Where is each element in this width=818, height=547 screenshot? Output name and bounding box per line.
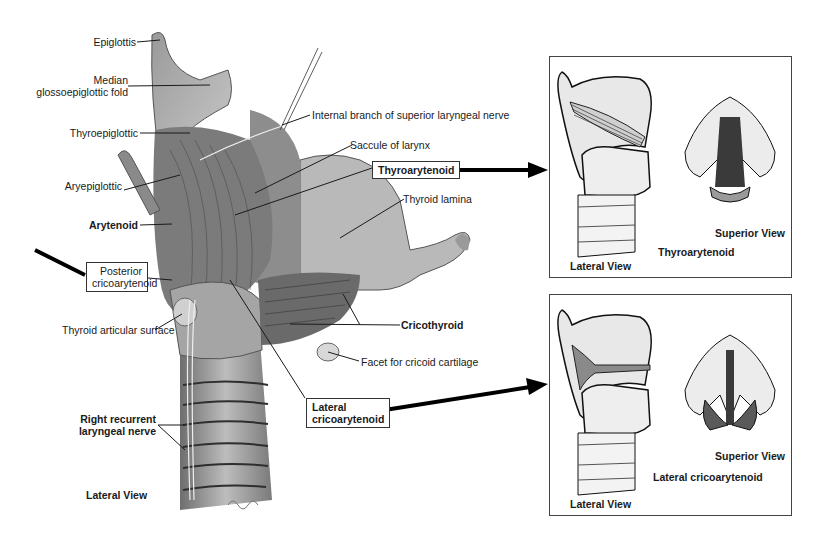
label-thyroid-lamina: Thyroid lamina — [403, 193, 472, 205]
arrow-lateral-cricoarytenoid — [372, 378, 548, 412]
label-facet-cricoid: Facet for cricoid cartilage — [361, 356, 478, 368]
label-epiglottis: Epiglottis — [80, 36, 136, 48]
label-thyroid-articular-surface: Thyroid articular surface — [62, 324, 175, 336]
label-right-recurrent-line1: Right recurrent — [60, 413, 156, 425]
caption-lateral-view-2: Lateral View — [570, 498, 631, 510]
caption-superior-view-1: Superior View — [715, 227, 785, 239]
label-posterior-cricoarytenoid: Posterior cricoarytenoid — [86, 262, 148, 292]
label-lateral-crico-line2: cricoarytenoid — [312, 413, 384, 425]
caption-muscle-1: Thyroarytenoid — [658, 246, 734, 258]
caption-muscle-2: Lateral cricoarytenoid — [653, 471, 763, 483]
label-median-fold-line2: glossoepiglottic fold — [20, 86, 128, 98]
label-lateral-crico-line1: Lateral — [312, 401, 384, 413]
label-cricothyroid: Cricothyroid — [401, 319, 463, 331]
label-lateral-cricoarytenoid: Lateral cricoarytenoid — [306, 398, 390, 428]
label-thyroarytenoid: Thyroarytenoid — [372, 161, 460, 179]
caption-main-lateral-view: Lateral View — [86, 489, 147, 501]
label-arytenoid: Arytenoid — [60, 219, 138, 231]
inset-panel-lateral-cricoarytenoid: Superior View Lateral cricoarytenoid Lat… — [549, 294, 792, 516]
label-median-fold-line1: Median — [40, 74, 128, 86]
caption-superior-view-2: Superior View — [715, 450, 785, 462]
label-saccule: Saccule of larynx — [350, 139, 430, 151]
caption-lateral-view-1: Lateral View — [570, 260, 631, 272]
label-internal-branch: Internal branch of superior laryngeal ne… — [312, 109, 509, 121]
inset-illustration — [550, 57, 791, 277]
label-aryepiglottic: Aryepiglottic — [40, 180, 122, 192]
label-thyroepiglottic: Thyroepiglottic — [50, 127, 138, 139]
label-posterior-line2: cricoarytenoid — [92, 277, 142, 289]
inset-panel-thyroarytenoid: Superior View Thyroarytenoid Lateral Vie… — [549, 56, 792, 278]
label-right-recurrent-line2: laryngeal nerve — [60, 425, 156, 437]
label-posterior-line1: Posterior — [92, 265, 142, 277]
arrow-posterior-cricoarytenoid — [35, 250, 85, 275]
